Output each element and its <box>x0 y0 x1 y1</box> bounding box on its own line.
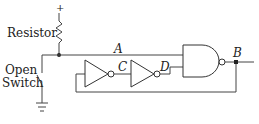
switch-label-line2: Switch <box>2 76 44 90</box>
junction-node-b <box>234 60 238 64</box>
node-c-label: C <box>118 60 127 74</box>
nand-gate-icon <box>183 45 225 77</box>
node-a-label: A <box>113 42 123 56</box>
plus-label: + <box>56 2 64 13</box>
circuit-diagram: + Resistor A Open Switch C D B <box>0 0 259 124</box>
inverter-1-icon <box>85 60 114 87</box>
resistor-label: Resistor <box>7 26 57 40</box>
circuit-svg: + Resistor A Open Switch C D B <box>0 0 259 124</box>
ground-icon <box>36 103 48 111</box>
node-b-label: B <box>232 46 242 60</box>
switch-label-line1: Open <box>5 63 38 77</box>
wire-a <box>42 55 183 59</box>
inverter-2-icon <box>131 60 160 87</box>
node-d-label: D <box>159 60 170 74</box>
